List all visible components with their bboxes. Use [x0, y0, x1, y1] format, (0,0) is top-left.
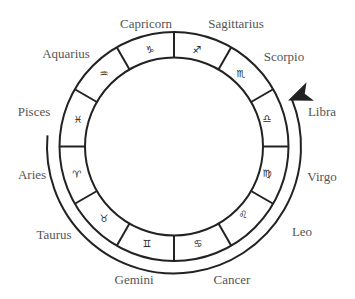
capricorn-symbol-icon: ♑	[146, 45, 155, 55]
taurus-symbol-icon: ♉	[100, 214, 109, 224]
sign-label-aquarius: Aquarius	[42, 46, 90, 62]
cancer-symbol-icon: ♋	[194, 239, 203, 249]
leo-symbol-icon: ♌	[239, 210, 248, 220]
zodiac-diagram: Capricorn♑Sagittarius♐Scorpio♏Libra♎Virg…	[0, 0, 355, 299]
sign-label-sagittarius: Sagittarius	[208, 16, 264, 32]
sign-label-pisces: Pisces	[18, 104, 51, 120]
sign-label-taurus: Taurus	[36, 227, 71, 243]
scorpio-symbol-icon: ♏	[237, 69, 246, 79]
sign-label-gemini: Gemini	[115, 272, 154, 288]
virgo-symbol-icon: ♍	[263, 169, 272, 179]
sign-dividers	[60, 32, 289, 261]
outer-ring	[60, 32, 289, 261]
sign-label-capricorn: Capricorn	[120, 16, 172, 32]
inner-ring	[85, 58, 263, 236]
aquarius-symbol-icon: ♒	[100, 69, 109, 79]
pisces-symbol-icon: ♓	[74, 115, 83, 125]
sagittarius-symbol-icon: ♐	[193, 45, 202, 55]
aries-symbol-icon: ♈	[73, 170, 82, 180]
gemini-symbol-icon: ♊	[143, 239, 152, 249]
sign-label-virgo: Virgo	[307, 169, 336, 185]
zodiac-wheel	[0, 0, 355, 299]
sign-label-libra: Libra	[308, 104, 336, 120]
sign-label-cancer: Cancer	[214, 272, 251, 288]
libra-symbol-icon: ♎	[263, 114, 272, 124]
sign-label-scorpio: Scorpio	[264, 49, 304, 65]
sign-label-leo: Leo	[292, 224, 312, 240]
sign-label-aries: Aries	[18, 167, 46, 183]
